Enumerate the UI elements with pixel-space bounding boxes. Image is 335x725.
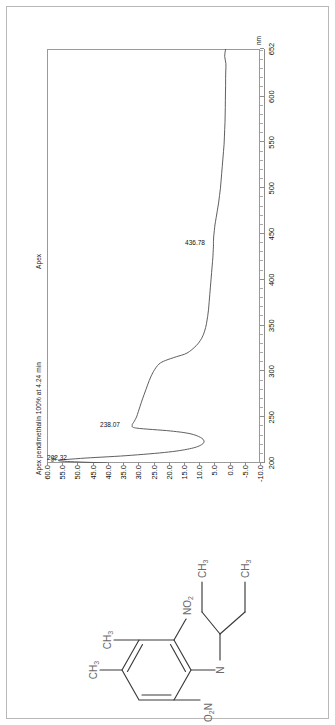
- x-tick-major: [260, 96, 264, 97]
- label-no2: NO2: [182, 596, 194, 615]
- pendimethalin-skeletal-formula: CH3 CH3 NO2 O2N N CH3 CH3: [70, 490, 266, 722]
- x-tick-label: 250: [267, 411, 276, 424]
- x-axis-ticks: [260, 49, 265, 463]
- apex-label: Apex: [35, 254, 42, 269]
- label-ch3-top-left: CH3: [88, 660, 100, 678]
- x-tick-major: [260, 325, 264, 326]
- x-axis-unit-label: nm: [255, 36, 262, 45]
- peak-label: 238.07: [100, 421, 120, 428]
- x-tick-label: 200: [267, 457, 276, 470]
- chemical-structure: CH3 CH3 NO2 O2N N CH3 CH3: [0, 486, 335, 725]
- x-tick-label: 450: [267, 228, 276, 241]
- x-tick-major: [260, 279, 264, 280]
- x-tick-label: 350: [267, 319, 276, 332]
- x-tick-major: [260, 462, 264, 463]
- x-tick-label: 550: [267, 136, 276, 149]
- peak-label: 436.78: [184, 239, 204, 246]
- x-tick-major: [260, 233, 264, 234]
- peak-label: 202.32: [46, 454, 66, 461]
- x-tick-major: [260, 187, 264, 188]
- x-tick-label: 500: [267, 182, 276, 195]
- x-tick-major: [260, 416, 264, 417]
- x-tick-major: [260, 48, 264, 49]
- document-page: Apex pendimethalin 100% at 4.24 min Apex…: [0, 0, 335, 725]
- label-o2n: O2N: [203, 703, 215, 722]
- x-tick-major: [260, 141, 264, 142]
- x-tick-label: 300: [267, 365, 276, 378]
- x-tick-label: 600: [267, 90, 276, 103]
- sample-title: Apex pendimethalin 100% at 4.24 min: [35, 362, 42, 475]
- spectrum-curve: [47, 49, 260, 463]
- label-ch3-upper: CH3: [197, 559, 209, 577]
- x-tick-major: [260, 370, 264, 371]
- x-tick-label: 652: [267, 43, 276, 56]
- label-amine-n: N: [215, 666, 226, 673]
- x-tick-label: 400: [267, 274, 276, 287]
- spectrum-figure: Apex pendimethalin 100% at 4.24 min Apex…: [0, 0, 335, 490]
- label-ch3-top-right: CH3: [102, 630, 114, 648]
- label-ch3-lower: CH3: [240, 559, 252, 577]
